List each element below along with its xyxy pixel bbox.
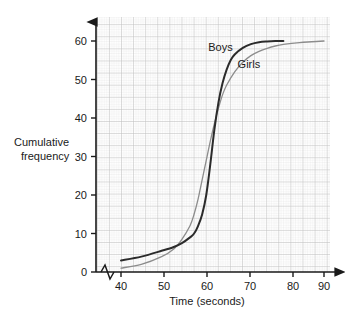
y-tick-label-40: 40 — [75, 112, 87, 124]
y-tick-label-10: 10 — [75, 228, 87, 240]
x-tick-label-90: 90 — [318, 280, 330, 292]
y-tick-label-20: 20 — [75, 189, 87, 201]
x-tick-label-40: 40 — [115, 280, 127, 292]
x-tick-label-70: 70 — [244, 280, 256, 292]
cumulative-frequency-chart: 0 10 20 30 40 50 60 40 50 60 70 80 — [0, 0, 345, 314]
y-tick-label-60: 60 — [75, 35, 87, 47]
y-tick-label-0: 0 — [81, 266, 87, 278]
chart-svg: 0 10 20 30 40 50 60 40 50 60 70 80 — [0, 0, 345, 314]
x-tick-label-80: 80 — [287, 280, 299, 292]
y-axis-title-line1: Cumulative — [14, 136, 69, 148]
y-tick-label-30: 30 — [75, 151, 87, 163]
x-tick-label-60: 60 — [201, 280, 213, 292]
x-tick-label-50: 50 — [158, 280, 170, 292]
y-axis-title-line2: frequency — [21, 150, 70, 162]
y-tick-label-50: 50 — [75, 74, 87, 86]
x-axis-title: Time (seconds) — [169, 295, 244, 307]
series-annotation-girls: Girls — [238, 58, 261, 70]
series-annotation-boys: Boys — [208, 41, 233, 53]
